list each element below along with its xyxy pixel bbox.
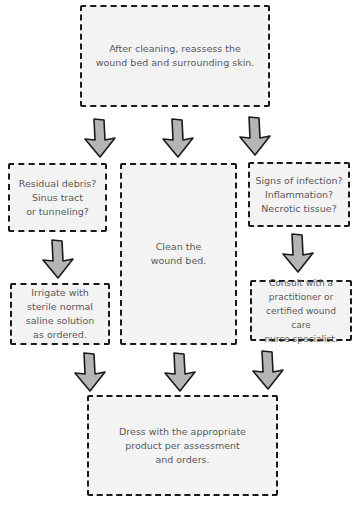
node-infection-question-text: Signs of infection? Inflammation? Necrot…	[255, 174, 342, 216]
node-reassess-text: After cleaning, reassess the wound bed a…	[96, 42, 255, 70]
node-irrigate-text: Irrigate with sterile normal saline solu…	[26, 286, 95, 342]
node-infection-question: Signs of infection? Inflammation? Necrot…	[248, 162, 350, 227]
down-arrow-icon	[82, 118, 118, 158]
node-consult-text: Consult with a practitioner or certified…	[256, 276, 346, 346]
down-arrow-icon	[162, 352, 198, 392]
node-reassess: After cleaning, reassess the wound bed a…	[80, 5, 270, 107]
node-clean: Clean the wound bed.	[120, 163, 237, 345]
node-clean-text: Clean the wound bed.	[151, 240, 207, 268]
node-debris-question: Residual debris? Sinus tract or tunnelin…	[8, 163, 107, 232]
down-arrow-icon	[250, 350, 286, 390]
node-dress-text: Dress with the appropriate product per a…	[119, 425, 246, 467]
down-arrow-icon	[160, 118, 196, 158]
node-debris-question-text: Residual debris? Sinus tract or tunnelin…	[19, 177, 97, 219]
down-arrow-icon	[40, 239, 76, 279]
down-arrow-icon	[72, 352, 108, 392]
node-irrigate: Irrigate with sterile normal saline solu…	[10, 283, 110, 345]
down-arrow-icon	[280, 233, 316, 273]
node-consult: Consult with a practitioner or certified…	[250, 280, 352, 341]
down-arrow-icon	[237, 116, 273, 156]
node-dress: Dress with the appropriate product per a…	[87, 395, 278, 496]
